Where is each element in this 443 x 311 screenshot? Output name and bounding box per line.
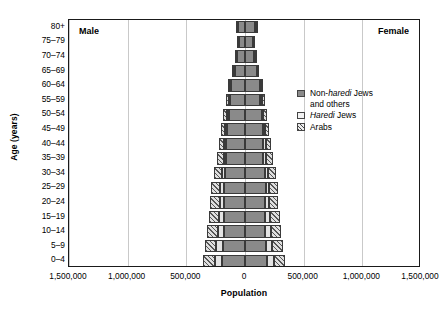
legend-label-non-haredi-jews: Non-haredi Jews	[310, 88, 413, 99]
bar-segment	[229, 94, 231, 106]
bar-segment	[269, 182, 278, 194]
bar-segment	[255, 50, 257, 62]
bar-segment	[269, 196, 279, 208]
bar-segment	[263, 109, 267, 121]
legend-label-italic: Haredi	[310, 110, 335, 120]
bar-segment	[236, 21, 238, 33]
bar-segment	[245, 79, 260, 91]
legend-label-non-haredi-jews-line2: and others	[310, 99, 413, 110]
bar-row	[69, 211, 419, 223]
bar-segment	[224, 225, 245, 237]
bar-segment	[271, 225, 281, 237]
bar-segment	[245, 109, 262, 121]
bar-segment	[272, 240, 283, 252]
bar-segment	[235, 50, 237, 62]
bar-segment	[268, 167, 276, 179]
bar-segment	[215, 255, 222, 267]
y-axis-tick-label: 55–59	[16, 95, 65, 103]
y-axis-tick-label: 10–14	[16, 226, 65, 234]
bar-segment	[245, 196, 265, 208]
y-axis-tick-label: 75–79	[16, 36, 65, 44]
bar-segment	[245, 255, 267, 267]
legend-label-italic: haredi	[328, 88, 351, 98]
empty-square-icon	[297, 112, 305, 120]
y-axis-tick-label: 35–39	[16, 153, 65, 161]
bar-segment	[224, 138, 226, 150]
bar-segment	[222, 167, 225, 179]
bar-segment	[265, 123, 270, 135]
bar-row	[69, 182, 419, 194]
y-axis-tick-label: 25–29	[16, 182, 65, 190]
y-axis-tick-label: 45–49	[16, 124, 65, 132]
bar-segment	[245, 152, 263, 164]
bar-segment	[205, 240, 216, 252]
bar-segment	[245, 21, 255, 33]
y-axis-tick-label: 0–4	[16, 255, 65, 263]
bar-row	[69, 138, 419, 150]
x-axis-title: Population	[68, 288, 420, 298]
legend-label-tail: Jews	[351, 88, 372, 98]
y-axis-tick-label: 40–44	[16, 139, 65, 147]
bar-segment	[225, 123, 227, 135]
y-axis-tick-label: 65–69	[16, 66, 65, 74]
bar-segment	[220, 182, 223, 194]
y-axis-tick-label: 30–34	[16, 168, 65, 176]
bar-segment	[224, 182, 245, 194]
plot-area: Male Female	[68, 19, 420, 267]
bar-segment	[267, 255, 274, 267]
chart-legend: Non-haredi Jews and others Haredi Jews A…	[297, 88, 413, 133]
bar-segment	[234, 65, 236, 77]
y-axis-tick-label: 60–64	[16, 80, 65, 88]
bar-segment	[209, 211, 220, 223]
legend-item-arabs: Arabs	[297, 122, 413, 133]
bar-row	[69, 225, 419, 237]
bar-segment	[218, 225, 224, 237]
bar-segment	[230, 79, 232, 91]
y-axis-tick-label: 80+	[16, 22, 65, 30]
bar-segment	[222, 255, 245, 267]
bar-segment	[245, 211, 265, 223]
bar-row	[69, 152, 419, 164]
y-axis-tick-labels: 0–45–910–1415–1920–2425–2930–3435–3940–4…	[16, 19, 65, 267]
legend-label-tail: Jews	[335, 110, 356, 120]
y-axis-tick-label: 50–54	[16, 109, 65, 117]
bar-segment	[230, 94, 245, 106]
bar-segment	[211, 182, 220, 194]
bar-segment	[266, 152, 273, 164]
bar-segment	[234, 65, 245, 77]
bar-segment	[224, 196, 245, 208]
bar-segment	[203, 255, 214, 267]
bar-segment	[270, 211, 280, 223]
y-axis-tick-label: 5–9	[16, 241, 65, 249]
bar-segment	[225, 167, 245, 179]
bar-segment	[245, 123, 263, 135]
legend-item-non-haredi-jews: Non-haredi Jews and others	[297, 88, 413, 109]
y-axis-tick-label: 15–19	[16, 212, 65, 220]
bar-segment	[231, 79, 245, 91]
bar-segment	[261, 79, 264, 91]
bar-row	[69, 255, 419, 267]
legend-item-haredi-jews: Haredi Jews	[297, 110, 413, 121]
bar-segment	[245, 182, 266, 194]
y-axis-tick-label: 20–24	[16, 197, 65, 205]
bar-segment	[253, 36, 255, 48]
bar-segment	[245, 50, 254, 62]
bar-segment	[256, 21, 258, 33]
bar-row	[69, 167, 419, 179]
bar-segment	[227, 109, 229, 121]
bar-segment	[207, 225, 218, 237]
bar-segment	[229, 109, 245, 121]
bar-row	[69, 50, 419, 62]
bar-segment	[245, 138, 263, 150]
bar-segment	[245, 94, 260, 106]
bar-segment	[219, 211, 224, 223]
filled-square-icon	[297, 90, 305, 98]
bar-segment	[262, 94, 265, 106]
bar-segment	[257, 65, 259, 77]
legend-label-prefix: Non-	[310, 88, 328, 98]
legend-label-arabs: Arabs	[310, 122, 413, 133]
bar-segment	[219, 138, 225, 150]
bar-segment	[232, 65, 234, 77]
bar-segment	[226, 94, 229, 106]
